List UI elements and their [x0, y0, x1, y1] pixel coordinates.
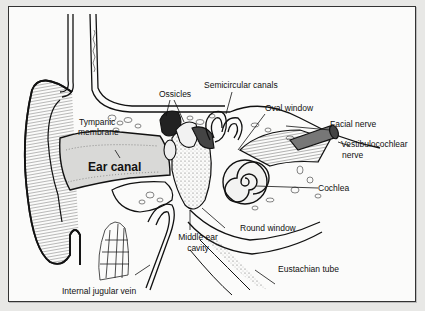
- label-tympanic-2: membrane: [78, 127, 119, 137]
- label-middle-ear-1: Middle ear: [175, 232, 221, 242]
- label-internal-jugular-vein: Internal jugular vein: [62, 286, 136, 296]
- label-facial-nerve: Facial nerve: [330, 119, 376, 129]
- label-vestibulocochlear-1: Vestibulocochlear: [341, 139, 408, 149]
- label-semicircular-canals: Semicircular canals: [204, 80, 278, 90]
- label-eustachian-tube: Eustachian tube: [278, 264, 339, 274]
- label-middle-ear-2: cavity: [175, 243, 221, 253]
- label-vestibulocochlear-2: nerve: [342, 150, 363, 160]
- nerve-bundle: [240, 124, 340, 166]
- label-cochlea: Cochlea: [318, 183, 349, 193]
- label-tympanic-1: Tympanic: [79, 117, 115, 127]
- cochlea-shape: [223, 160, 269, 204]
- label-ear-canal: Ear canal: [88, 160, 141, 174]
- label-oval-window: Oval window: [265, 103, 313, 113]
- muscle-mesh: [99, 222, 129, 280]
- label-ossicles: Ossicles: [159, 89, 191, 99]
- label-round-window: Round window: [240, 223, 296, 233]
- jugular-vein-shape: [146, 204, 174, 290]
- mastoid-bone: [112, 182, 173, 212]
